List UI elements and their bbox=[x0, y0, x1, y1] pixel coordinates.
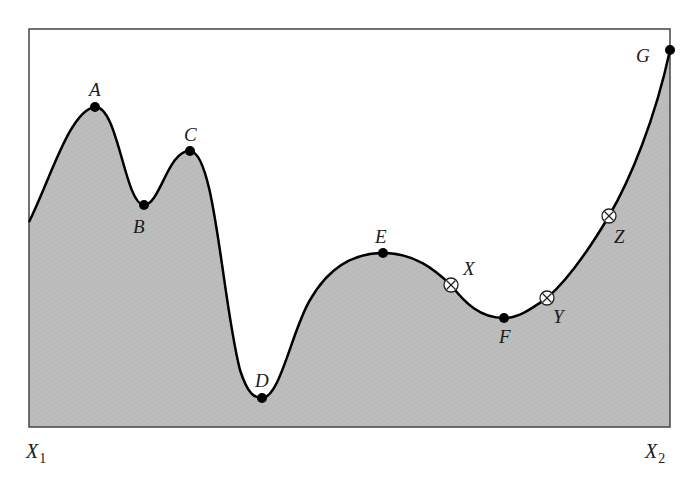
label-e: E bbox=[374, 226, 387, 247]
label-x: X bbox=[462, 258, 476, 279]
landscape-fill bbox=[29, 50, 670, 427]
point-g-dot bbox=[665, 45, 675, 55]
label-f: F bbox=[498, 326, 511, 347]
fitness-landscape-diagram: A B C D E F G X Y Z X1 X2 bbox=[0, 0, 696, 489]
label-g: G bbox=[636, 45, 650, 66]
point-e-dot bbox=[378, 248, 388, 258]
point-x-marker-icon bbox=[444, 278, 458, 292]
label-a: A bbox=[87, 79, 101, 100]
label-b: B bbox=[133, 216, 145, 237]
point-a-dot bbox=[90, 102, 100, 112]
point-c-dot bbox=[185, 146, 195, 156]
label-d: D bbox=[254, 370, 269, 391]
point-y-marker-icon bbox=[540, 291, 554, 305]
point-z-marker-icon bbox=[602, 209, 616, 223]
label-z: Z bbox=[614, 226, 625, 247]
point-f-dot bbox=[499, 313, 509, 323]
axis-label-x1: X1 bbox=[25, 440, 46, 466]
label-c: C bbox=[184, 124, 197, 145]
point-b-dot bbox=[139, 200, 149, 210]
point-d-dot bbox=[257, 393, 267, 403]
axis-label-x2: X2 bbox=[644, 440, 665, 466]
